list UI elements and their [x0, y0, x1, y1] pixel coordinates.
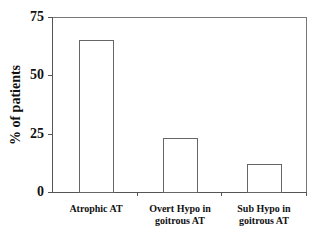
x-tick	[137, 192, 138, 196]
y-axis-label: % of patients	[8, 55, 24, 155]
x-label-overt-hypo: Overt Hypo in goitrous AT	[138, 203, 222, 227]
bar-overt-hypo	[163, 138, 198, 193]
x-label-line: Overt Hypo in	[138, 203, 222, 215]
x-tick	[221, 192, 222, 196]
y-tick	[48, 17, 52, 18]
y-axis	[52, 17, 53, 192]
y-tick	[48, 192, 52, 193]
y-tick	[48, 75, 52, 76]
bar-sub-hypo	[247, 164, 282, 193]
y-tick	[48, 134, 52, 135]
y-tick-label: 75	[20, 10, 44, 24]
x-label-sub-hypo: Sub Hypo in goitrous AT	[222, 203, 306, 227]
x-tick	[306, 192, 307, 196]
x-label-line: Atrophic AT	[54, 203, 138, 215]
bar-atrophic-at	[79, 40, 114, 193]
x-label-line: Sub Hypo in	[222, 203, 306, 215]
x-label-atrophic-at: Atrophic AT	[54, 203, 138, 215]
x-label-line: goitrous AT	[138, 215, 222, 227]
x-label-line: goitrous AT	[222, 215, 306, 227]
y-tick-label: 0	[20, 185, 44, 199]
